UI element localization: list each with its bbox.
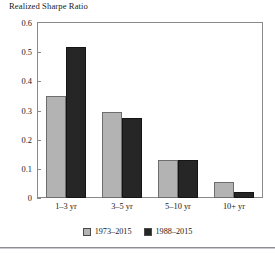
y-tick-label: 0.3 bbox=[22, 106, 32, 115]
legend-label: 1973–2015 bbox=[95, 227, 132, 236]
bar-series-a bbox=[46, 96, 66, 198]
legend-swatch-series-a-icon bbox=[83, 228, 91, 236]
y-tick-mark bbox=[37, 198, 41, 199]
bar-series-b bbox=[66, 47, 86, 198]
legend-label: 1988–2015 bbox=[156, 227, 193, 236]
x-tick-label: 5–10 yr bbox=[165, 202, 191, 211]
bar-group bbox=[102, 23, 142, 198]
x-tick-label: 10+ yr bbox=[223, 202, 245, 211]
bar-series-b bbox=[234, 192, 254, 198]
bar-series-b bbox=[122, 118, 142, 198]
bars-layer bbox=[38, 23, 262, 198]
x-axis-labels: 1–3 yr3–5 yr5–10 yr10+ yr bbox=[37, 202, 263, 218]
figure: Realized Sharpe Ratio 00.10.20.30.40.50.… bbox=[0, 0, 275, 258]
chart-legend: 1973–20151988–2015 bbox=[0, 227, 275, 236]
y-tick-label: 0.2 bbox=[22, 135, 32, 144]
x-tick-label: 3–5 yr bbox=[111, 202, 133, 211]
legend-swatch-series-b-icon bbox=[144, 228, 152, 236]
legend-item: 1988–2015 bbox=[144, 227, 193, 236]
y-tick-label: 0 bbox=[28, 194, 32, 203]
y-tick-label: 0.5 bbox=[22, 48, 32, 57]
bar-series-b bbox=[178, 160, 198, 198]
x-tick-label: 1–3 yr bbox=[55, 202, 77, 211]
bar-series-a bbox=[158, 160, 178, 198]
bar-group bbox=[158, 23, 198, 198]
y-tick-label: 0.6 bbox=[22, 19, 32, 28]
bar-series-a bbox=[102, 112, 122, 198]
bar-series-a bbox=[214, 182, 234, 198]
legend-item: 1973–2015 bbox=[83, 227, 132, 236]
bar-group bbox=[46, 23, 86, 198]
y-axis: 00.10.20.30.40.50.6 bbox=[0, 0, 37, 258]
y-tick-label: 0.1 bbox=[22, 164, 32, 173]
y-tick-label: 0.4 bbox=[22, 77, 32, 86]
bar-group bbox=[214, 23, 254, 198]
bottom-rule bbox=[0, 247, 275, 249]
